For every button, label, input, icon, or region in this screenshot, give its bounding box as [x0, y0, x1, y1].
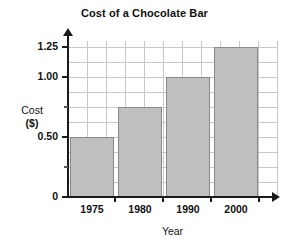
y-tick-label-1.00: 1.00 — [4, 71, 58, 82]
bar-1990 — [166, 77, 210, 197]
y-tick-minor-0.25 — [64, 166, 68, 168]
y-axis-title: Cost ($) — [6, 104, 58, 130]
plot-area — [68, 41, 277, 197]
y-tick-0.50 — [62, 136, 68, 138]
chart-figure: Cost of a Chocolate Bar 1.251.000.500 19… — [0, 0, 289, 246]
bar-2000 — [214, 47, 258, 197]
x-tick-label-1980: 1980 — [118, 204, 162, 215]
y-tick-minor-0.75 — [64, 106, 68, 108]
chart-title: Cost of a Chocolate Bar — [0, 7, 289, 19]
y-axis-title-line2: ($) — [6, 117, 58, 130]
y-tick-label-1.25: 1.25 — [4, 41, 58, 52]
gridline-vertical — [163, 41, 164, 197]
x-tick-2000 — [258, 197, 260, 202]
x-tick-1980 — [162, 197, 164, 202]
y-tick-0 — [62, 196, 68, 198]
x-axis-title: Year — [68, 225, 277, 237]
y-axis-line — [67, 35, 69, 198]
x-tick-1975 — [114, 197, 116, 202]
y-tick-label-0: 0 — [4, 191, 58, 202]
gridline-vertical — [277, 41, 278, 197]
gridline-vertical — [258, 41, 259, 197]
x-tick-label-1990: 1990 — [166, 204, 210, 215]
x-axis-arrow-icon — [272, 192, 280, 202]
bar-1975 — [70, 137, 114, 197]
y-tick-label-0.50: 0.50 — [4, 131, 58, 142]
y-tick-1.25 — [62, 46, 68, 48]
bar-1980 — [118, 107, 162, 197]
y-axis-arrow-icon — [63, 28, 73, 36]
x-axis-line — [67, 196, 273, 198]
x-tick-label-2000: 2000 — [214, 204, 258, 215]
y-tick-1.00 — [62, 76, 68, 78]
x-tick-label-1975: 1975 — [70, 204, 114, 215]
x-tick-1990 — [210, 197, 212, 202]
y-axis-title-line1: Cost — [21, 104, 43, 116]
